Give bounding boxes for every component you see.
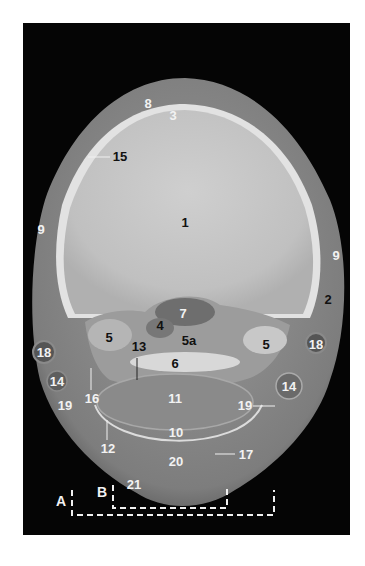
structure-label: 18 (309, 338, 323, 351)
structure-label: 5 (105, 331, 112, 344)
structure-label: 19 (238, 399, 252, 412)
structure-label: 20 (169, 455, 183, 468)
structure-label: 6 (171, 357, 178, 370)
structure-label: 2 (324, 293, 331, 306)
structure-label: 1 (181, 216, 188, 229)
structure-label: 21 (127, 478, 141, 491)
structure-label: 9 (332, 249, 339, 262)
structure-label: 4 (156, 319, 163, 332)
bracket-letter: B (97, 484, 107, 500)
structure-label: 5a (182, 334, 196, 347)
structure-label: 14 (50, 375, 64, 388)
structure-label: 14 (282, 380, 296, 393)
structure-label: 17 (239, 448, 253, 461)
bracket-letter: A (56, 493, 66, 509)
structure-label: 16 (85, 392, 99, 405)
anatomical-cross-section-image (23, 23, 350, 535)
structure-label: 19 (58, 399, 72, 412)
structure-label: 11 (168, 392, 182, 405)
structure-label: 3 (169, 109, 176, 122)
structure-label: 9 (37, 223, 44, 236)
structure-label: 10 (169, 426, 183, 439)
structure-label: 7 (179, 307, 186, 320)
anatomy-illustration (23, 23, 350, 535)
structure-label: 15 (113, 150, 127, 163)
structure-label: 5 (262, 338, 269, 351)
structure-label: 18 (37, 346, 51, 359)
structure-label: 12 (101, 442, 115, 455)
structure-6 (130, 352, 240, 372)
structure-label: 8 (144, 97, 151, 110)
structure-label: 13 (132, 340, 146, 353)
